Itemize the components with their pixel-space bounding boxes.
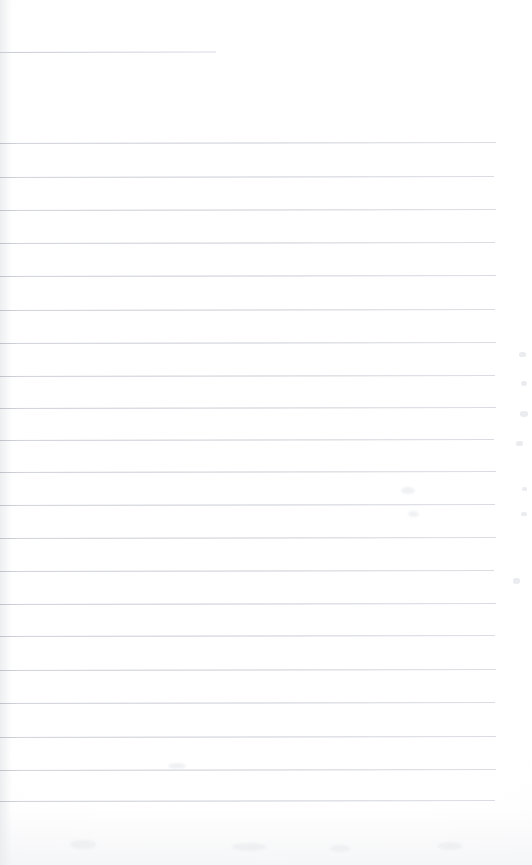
- scanned-page: [0, 0, 532, 865]
- ruled-line: [0, 669, 496, 671]
- scan-smudge: [168, 763, 186, 769]
- scan-smudge: [408, 511, 419, 517]
- ruled-line: [0, 769, 496, 771]
- bottom-edge-scan-shadow: [0, 805, 532, 865]
- margin-mark: [521, 512, 527, 516]
- ruled-line: [0, 242, 495, 244]
- ruled-line: [0, 702, 495, 704]
- ruled-line: [0, 800, 495, 802]
- margin-mark: [520, 411, 528, 417]
- scan-smudge: [232, 843, 266, 851]
- scan-smudge: [401, 487, 415, 494]
- scan-smudge: [70, 840, 96, 849]
- ruled-line: [0, 309, 495, 311]
- ruled-line: [0, 471, 496, 473]
- ruled-line: [0, 603, 496, 605]
- scan-smudge: [438, 842, 462, 850]
- margin-mark: [521, 381, 527, 386]
- ruled-line: [0, 375, 495, 377]
- margin-mark: [519, 352, 526, 357]
- ruled-line: [0, 504, 495, 506]
- ruled-line: [0, 52, 216, 53]
- ruled-line: [0, 142, 496, 144]
- ruled-line: [0, 342, 496, 344]
- ruled-line: [0, 570, 494, 572]
- ruled-line: [0, 635, 495, 637]
- ruled-line: [0, 537, 496, 539]
- margin-mark: [522, 487, 527, 491]
- ruled-line: [0, 209, 496, 211]
- left-edge-scan-shadow: [0, 0, 12, 865]
- ruled-line: [0, 439, 494, 441]
- margin-mark: [516, 441, 523, 446]
- ruled-line: [0, 176, 494, 178]
- ruled-line: [0, 407, 496, 409]
- ruled-line: [0, 736, 496, 738]
- scan-smudge: [330, 845, 350, 852]
- margin-mark: [513, 578, 520, 584]
- ruled-line: [0, 275, 496, 277]
